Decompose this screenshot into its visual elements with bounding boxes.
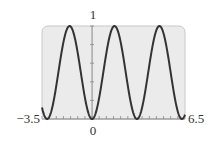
x-axis [42, 116, 185, 119]
chart: 1 −3.5 0 6.5 [0, 0, 216, 143]
x-origin-label: 0 [90, 123, 97, 138]
y-max-label: 1 [90, 7, 97, 22]
x-min-label: −3.5 [16, 111, 40, 126]
x-max-label: 6.5 [188, 111, 204, 126]
